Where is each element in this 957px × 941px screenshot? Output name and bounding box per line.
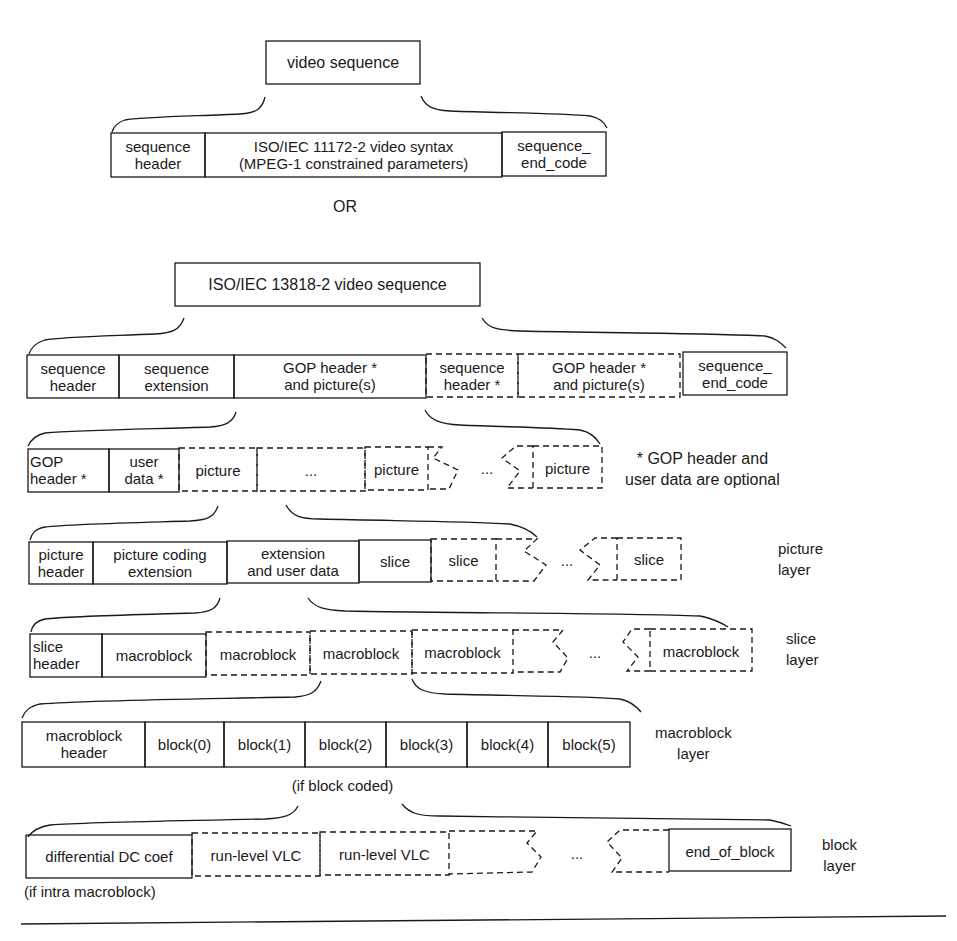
picture-layer-label: picturelayer: [778, 538, 823, 580]
block-layer-label: blocklayer: [822, 834, 857, 876]
mb-cell-block-0: block(0): [145, 736, 224, 753]
blk-cell-run-level-1: run-level VLC: [192, 847, 320, 864]
mpeg2-title: ISO/IEC 13818-2 video sequence: [175, 276, 480, 293]
or-label: OR: [320, 198, 370, 215]
blk-cell-end-of-block: end_of_block: [669, 843, 791, 860]
pic-cell-coding-extension: picture codingextension: [93, 546, 227, 580]
pic-cell-slice-last: slice: [617, 551, 681, 568]
slice-cell-slice-header: sliceheader: [33, 638, 101, 672]
mpeg1-cell-video-syntax: ISO/IEC 11172-2 video syntax(MPEG-1 cons…: [205, 138, 502, 172]
seq-cell-sequence-header: sequenceheader: [27, 360, 119, 394]
brace-mpeg1-right: [421, 96, 607, 128]
slice-cell-macroblock-last: macroblock: [650, 643, 752, 660]
gop-cell-gop-header: GOPheader *: [30, 453, 108, 487]
pic-cell-extension-user-data: extensionand user data: [227, 545, 359, 579]
seq-cell-gop-pictures-repeat: GOP header *and picture(s): [518, 359, 680, 393]
mpeg1-cell-sequence-header: sequenceheader: [111, 138, 205, 172]
pic-cell-slice-2: slice: [431, 552, 496, 569]
if-block-coded-note: (if block coded): [270, 777, 415, 794]
blk-cell-run-level-2: run-level VLC: [320, 846, 449, 863]
mb-cell-macroblock-header: macroblockheader: [24, 727, 144, 761]
gop-cell-picture-2: picture: [365, 461, 428, 478]
seq-cell-sequence-header-optional: sequenceheader *: [426, 359, 518, 393]
seq-cell-end-code: sequence_end_code: [683, 357, 787, 391]
brace-seq-left: [29, 318, 184, 354]
gop-cell-picture-last: picture: [533, 460, 602, 477]
blk-cell-gap-ellipsis: ...: [562, 845, 592, 862]
slice-cell-macroblock-1: macroblock: [102, 647, 206, 664]
mpeg1-cell-end-code: sequence_end_code: [502, 137, 606, 171]
gop-cell-ellipsis: ...: [257, 462, 365, 479]
seq-cell-gop-pictures: GOP header *and picture(s): [234, 359, 426, 393]
gop-cell-gap-ellipsis: ...: [472, 460, 502, 477]
mb-cell-block-1: block(1): [224, 736, 305, 753]
mb-cell-block-2: block(2): [305, 736, 386, 753]
macroblock-layer-label: macroblocklayer: [655, 722, 732, 764]
brace-seq-right: [482, 318, 786, 348]
pic-cell-gap-ellipsis: ...: [552, 552, 582, 569]
bottom-rule: [21, 916, 946, 924]
gop-optional-note: * GOP header anduser data are optional: [625, 448, 780, 490]
mb-cell-block-5: block(5): [548, 736, 630, 753]
if-intra-macroblock-note: (if intra macroblock): [24, 881, 156, 902]
blk-cell-differential-dc: differential DC coef: [26, 848, 192, 865]
mb-cell-block-4: block(4): [467, 736, 548, 753]
brace-mpeg1-left: [112, 97, 265, 132]
gop-cell-user-data: userdata *: [109, 453, 179, 487]
slice-cell-macroblock-3: macroblock: [310, 645, 412, 662]
slice-cell-gap-ellipsis: ...: [580, 644, 610, 661]
gop-cell-picture-1: picture: [179, 462, 257, 479]
slice-layer-label: slicelayer: [786, 628, 819, 670]
mb-cell-block-3: block(3): [386, 736, 467, 753]
slice-cell-macroblock-4: macroblock: [412, 644, 513, 661]
pic-cell-picture-header: pictureheader: [29, 546, 93, 580]
slice-cell-macroblock-2: macroblock: [206, 646, 310, 663]
mpeg1-title: video sequence: [266, 54, 420, 71]
pic-cell-slice-1: slice: [359, 553, 431, 570]
seq-cell-sequence-extension: sequenceextension: [119, 360, 234, 394]
